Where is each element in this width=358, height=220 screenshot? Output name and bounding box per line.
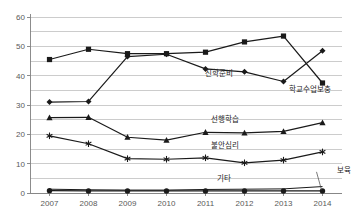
y-tick-label-20: 20 [16,130,25,139]
marker-circle [281,188,286,193]
marker-square [86,47,91,52]
x-tick-label-2011: 2011 [197,199,215,208]
marker-diamond [47,99,53,105]
series-label-기타: 기타 [217,174,231,183]
marker-diamond [242,69,248,75]
series-label-보육: 보육 [337,166,351,175]
marker-circle [320,188,325,193]
marker-circle [203,188,208,193]
x-tick-label-2013: 2013 [275,199,293,208]
marker-circle [242,188,247,193]
series-label-학교수업보충: 학교수업보충 [289,84,331,94]
marker-circle [164,188,169,193]
x-tick-label-2007: 2007 [41,199,59,208]
chart-plot-area: 0102030405060200720082009201020112012201… [0,0,358,220]
series-label-진학준비: 진학준비 [205,68,233,78]
marker-triangle [319,119,325,125]
y-tick-label-40: 40 [16,72,25,81]
x-tick-label-2008: 2008 [80,199,98,208]
x-tick-label-2012: 2012 [236,199,254,208]
series-label-불안심리: 불안심리 [211,140,239,150]
series-line-진학준비 [50,51,323,102]
marker-square [203,50,208,55]
y-tick-label-50: 50 [16,42,25,51]
line-chart: 0102030405060200720082009201020112012201… [0,0,358,220]
y-tick-label-60: 60 [16,13,25,22]
y-tick-label-0: 0 [21,189,26,198]
series-label-선행학습: 선행학습 [211,114,239,124]
marker-square [47,57,52,62]
y-tick-label-10: 10 [16,160,25,169]
y-tick-label-30: 30 [16,101,25,110]
marker-circle [125,188,130,193]
x-tick-label-2014: 2014 [314,199,332,208]
series-line-선행학습 [50,117,323,140]
marker-square [281,33,286,38]
x-tick-label-2010: 2010 [158,199,176,208]
marker-circle [86,188,91,193]
x-tick-label-2009: 2009 [119,199,137,208]
marker-square [242,39,247,44]
marker-circle [47,188,52,193]
chart-title [0,0,358,5]
